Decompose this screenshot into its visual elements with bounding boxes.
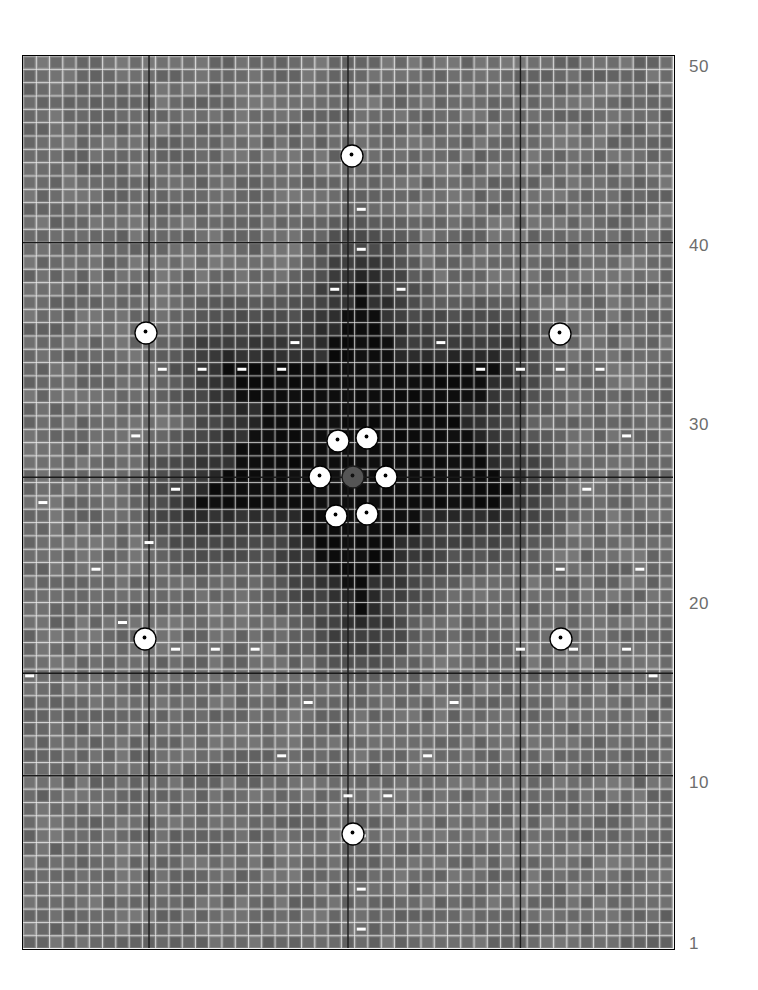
chart-figure: 50 40 30 20 10 1 [0, 0, 758, 990]
axis-tick-label-1: 1 [689, 935, 699, 952]
heatmap-plot-area[interactable] [22, 55, 675, 950]
heatmap-canvas[interactable] [23, 56, 673, 948]
axis-tick-label-20: 20 [689, 595, 709, 612]
axis-tick-label-10: 10 [689, 774, 709, 791]
axis-tick-label-50: 50 [689, 58, 709, 75]
axis-tick-label-40: 40 [689, 237, 709, 254]
axis-tick-label-30: 30 [689, 416, 709, 433]
